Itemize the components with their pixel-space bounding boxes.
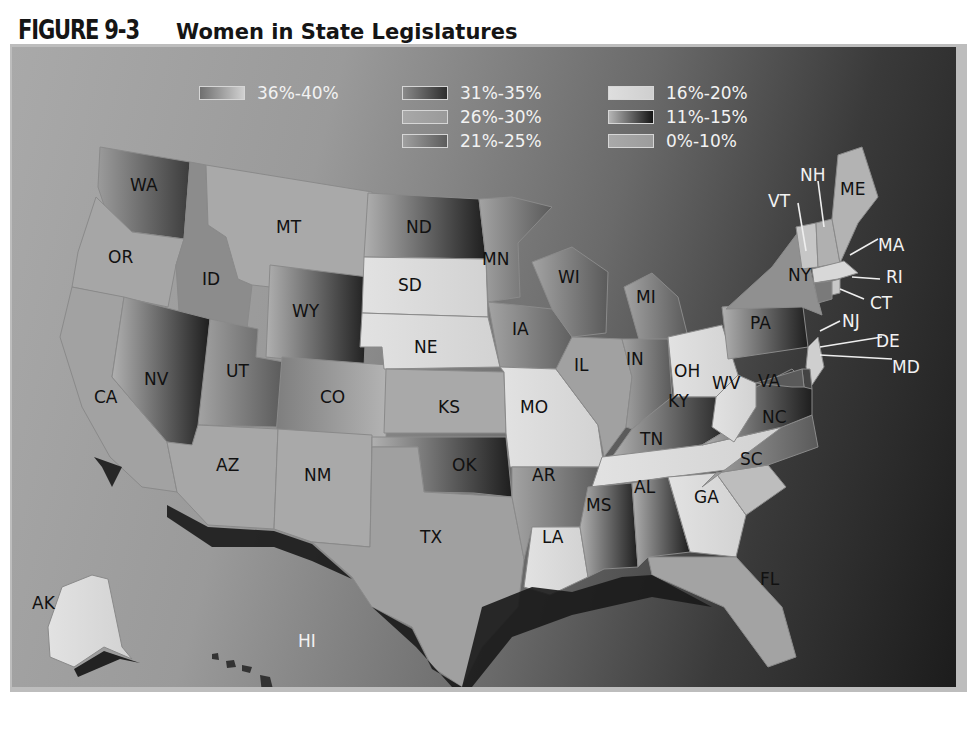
leader-ma: [850, 239, 878, 255]
figure-title: FIGURE 9-3 Women in State Legislatures: [18, 14, 517, 46]
label-ky: KY: [668, 391, 690, 411]
legend-item: 21%-25%: [402, 131, 542, 151]
label-ne: NE: [414, 337, 437, 357]
legend-label: 16%-20%: [666, 83, 748, 103]
label-ri: RI: [886, 267, 903, 287]
leader-ct: [840, 289, 864, 299]
legend-swatch: [402, 110, 448, 124]
state-ak: [48, 575, 132, 667]
label-or: OR: [108, 247, 133, 267]
label-ny: NY: [788, 265, 812, 285]
label-pa: PA: [750, 313, 771, 333]
state-ri: [832, 279, 840, 295]
label-ia: IA: [512, 319, 529, 339]
leader-md: [820, 355, 892, 359]
leader-ri: [852, 277, 880, 279]
label-vt: VT: [768, 191, 791, 211]
label-nh: NH: [800, 165, 826, 185]
label-nj: NJ: [842, 311, 860, 331]
leader-de: [820, 337, 882, 347]
label-ok: OK: [452, 455, 477, 475]
label-ca: CA: [94, 387, 118, 407]
leader-nj: [820, 321, 840, 331]
label-oh: OH: [674, 361, 700, 381]
label-la: LA: [542, 527, 564, 547]
label-mt: MT: [276, 217, 302, 237]
legend-swatch: [608, 86, 654, 100]
label-tn: TN: [639, 429, 663, 449]
label-ma: MA: [878, 235, 905, 255]
legend-swatch: [608, 134, 654, 148]
legend-label: 36%-40%: [257, 83, 339, 103]
label-ga: GA: [694, 487, 719, 507]
label-mo: MO: [520, 397, 548, 417]
legend-swatch: [199, 86, 245, 100]
map-panel: WA OR CA ID NV MT WY UT CO AZ NM ND SD N…: [12, 47, 956, 687]
label-tx: TX: [419, 527, 442, 547]
legend-label: 21%-25%: [460, 131, 542, 151]
label-mn: MN: [482, 249, 509, 269]
label-ct: CT: [870, 293, 893, 313]
legend-item: 26%-30%: [402, 107, 542, 127]
label-va: VA: [758, 371, 781, 391]
label-wa: WA: [130, 175, 158, 195]
legend-item: 31%-35%: [402, 83, 542, 103]
label-nv: NV: [144, 369, 169, 389]
legend-label: 11%-15%: [666, 107, 748, 127]
label-az: AZ: [216, 455, 239, 475]
legend-item: 11%-15%: [608, 107, 748, 127]
label-ut: UT: [226, 361, 249, 381]
leader-nh: [818, 181, 824, 227]
label-ar: AR: [532, 465, 556, 485]
label-hi: HI: [298, 631, 316, 651]
legend-label: 26%-30%: [460, 107, 542, 127]
label-wi: WI: [558, 267, 580, 287]
label-id: ID: [202, 269, 220, 289]
legend-swatch: [402, 86, 448, 100]
label-sd: SD: [398, 275, 422, 295]
label-nd: ND: [406, 217, 432, 237]
label-wv: WV: [712, 373, 741, 393]
label-co: CO: [320, 387, 345, 407]
label-sc: SC: [740, 449, 763, 469]
state-sd: [362, 257, 488, 317]
map-legend: 36%-40% 31%-35% 26%-30% 21%-25% 16%-20% …: [12, 47, 956, 167]
state-hi: [212, 653, 274, 687]
label-wy: WY: [292, 301, 320, 321]
label-ks: KS: [438, 397, 460, 417]
label-nm: NM: [304, 465, 331, 485]
label-mi: MI: [636, 287, 656, 307]
label-md: MD: [892, 357, 920, 377]
figure-number: FIGURE 9-3: [18, 14, 141, 45]
label-in: IN: [626, 349, 644, 369]
legend-swatch: [608, 110, 654, 124]
legend-item: 16%-20%: [608, 83, 748, 103]
label-ak: AK: [32, 593, 56, 613]
label-fl: FL: [760, 569, 780, 589]
label-al: AL: [634, 477, 656, 497]
label-nc: NC: [762, 407, 787, 427]
legend-label: 0%-10%: [666, 131, 737, 151]
label-me: ME: [840, 179, 865, 199]
legend-swatch: [402, 134, 448, 148]
state-nm: [274, 429, 372, 547]
label-il: IL: [574, 355, 589, 375]
figure-caption: Women in State Legislatures: [176, 20, 517, 44]
label-de: DE: [876, 331, 900, 351]
state-mi: [624, 273, 688, 343]
legend-item: 0%-10%: [608, 131, 737, 151]
legend-item: 36%-40%: [199, 83, 339, 103]
legend-label: 31%-35%: [460, 83, 542, 103]
label-ms: MS: [586, 495, 611, 515]
